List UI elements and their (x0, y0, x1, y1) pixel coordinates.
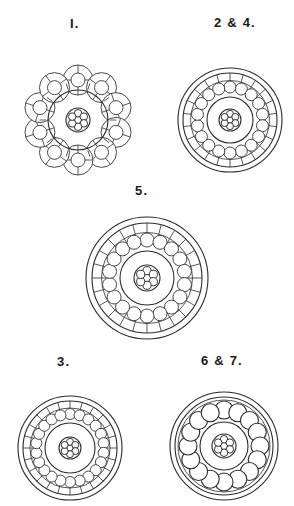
lobe-inner-circle (95, 81, 109, 95)
figure-label-2-and-4: 2 & 4. (214, 15, 256, 30)
figure-6-7-drawing (170, 392, 278, 500)
bead-circle (127, 235, 141, 249)
figure-label-1: I. (70, 16, 80, 31)
bead-circle (177, 278, 191, 292)
figure-label-6-and-7: 6 & 7. (201, 353, 243, 368)
bead-circle (213, 83, 225, 95)
bead-circle (103, 278, 117, 292)
bead-circle (140, 233, 154, 247)
bead-circle (140, 309, 154, 323)
figure-5-drawing (86, 217, 208, 339)
lobe-inner-circle (33, 125, 47, 139)
bead-circle (224, 81, 236, 93)
plate-drawing (0, 0, 294, 506)
core-dot (221, 113, 228, 120)
bead-circle (55, 410, 66, 421)
bead-circle (224, 147, 236, 159)
bead-circle (192, 108, 204, 120)
lobe-inner-circle (33, 101, 47, 115)
core-dot (214, 439, 222, 447)
bead-circle (256, 120, 268, 132)
bead-circle (177, 264, 191, 278)
figure-label-5: 5. (135, 183, 148, 198)
lobe-inner-circle (71, 153, 85, 167)
figure-2-4-drawing (178, 68, 282, 172)
lobe-inner-circle (109, 125, 123, 139)
lobe-inner-circle (109, 101, 123, 115)
core-dot (61, 441, 68, 448)
bead-circle (235, 145, 247, 157)
figure-plate: I. 2 & 4. 5. 3. 6 & 7. (0, 0, 294, 506)
lobe-inner-circle (71, 73, 85, 87)
core-dot (68, 113, 76, 121)
figure-1-drawing (25, 65, 131, 175)
figure-label-3: 3. (57, 354, 70, 369)
bead-circle (192, 120, 204, 132)
bead-circle (153, 307, 167, 321)
bead-circle (173, 252, 187, 266)
bead-circle (253, 98, 265, 110)
bead-circle (201, 404, 219, 422)
core-dot (137, 270, 145, 278)
bead-circle (256, 108, 268, 120)
bead-circle (103, 264, 117, 278)
bead-circle (107, 290, 121, 304)
lobe-inner-circle (47, 145, 61, 159)
bead-circle (195, 131, 207, 143)
figure-3-drawing (18, 396, 122, 500)
lobe-inner-circle (95, 145, 109, 159)
lobe-inner-circle (47, 81, 61, 95)
